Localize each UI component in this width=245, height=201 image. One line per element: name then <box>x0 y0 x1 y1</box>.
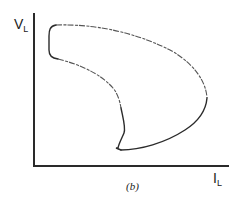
loop-inner-branch <box>58 59 121 108</box>
y-axis-label: VL <box>14 16 28 34</box>
figure-caption: (b) <box>126 180 139 193</box>
loop-lower-branch <box>121 98 207 150</box>
loop-left-corner <box>49 25 58 59</box>
loop-upper-branch <box>56 25 207 98</box>
x-axis-label: IL <box>213 170 222 188</box>
ivl-loop-diagram: VL IL (b) <box>0 0 245 201</box>
loop-descending-segment <box>116 108 125 150</box>
